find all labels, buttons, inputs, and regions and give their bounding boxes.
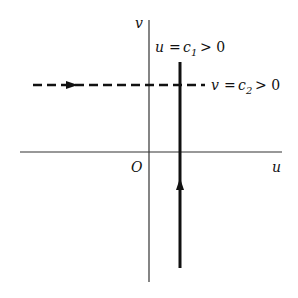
svg-text:2: 2 — [245, 85, 252, 96]
svg-text:c: c — [238, 77, 246, 93]
svg-text:=: = — [224, 77, 236, 93]
up-arrow-icon — [176, 178, 184, 190]
u-axis-label: u — [272, 159, 281, 175]
svg-text:v: v — [211, 77, 219, 93]
svg-text:> 0: > 0 — [255, 77, 280, 93]
v-axis-label: v — [135, 15, 143, 31]
svg-text:=: = — [169, 39, 181, 55]
phase-plane-diagram: v u O u = c 1 > 0 v = c 2 > 0 — [0, 0, 298, 298]
right-arrow-icon — [66, 81, 78, 89]
svg-text:1: 1 — [191, 47, 197, 58]
origin-label: O — [131, 159, 143, 175]
svg-text:u: u — [155, 39, 164, 55]
svg-text:c: c — [183, 39, 191, 55]
v-c2-label: v = c 2 > 0 — [211, 77, 280, 96]
u-c1-label: u = c 1 > 0 — [155, 39, 225, 58]
svg-text:> 0: > 0 — [200, 39, 225, 55]
